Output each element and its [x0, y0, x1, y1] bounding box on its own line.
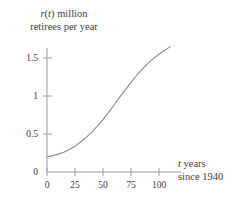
x-tick-label-100: 100	[146, 180, 172, 190]
x-tick-label-0: 0	[34, 180, 60, 190]
y-axis-variable-r: r	[41, 8, 45, 19]
y-tick-label-1_5: 1.5	[10, 53, 38, 63]
y-tick-label-0: 0	[10, 167, 38, 177]
x-axis-title-line1: t years	[178, 158, 238, 171]
x-tick-label-25: 25	[62, 180, 88, 190]
x-tick-label-75: 75	[118, 180, 144, 190]
y-tick-label-0_5: 0.5	[10, 129, 38, 139]
y-axis-title: r(t) million retirees per year	[12, 8, 116, 33]
x-axis-variable-t: t	[178, 158, 181, 169]
y-axis-title-line1: r(t) million	[12, 8, 116, 21]
x-tick-label-50: 50	[90, 180, 116, 190]
retirees-rate-chart: r(t) million retirees per year t years s…	[0, 0, 238, 203]
x-axis-title: t years since 1940	[178, 158, 238, 183]
y-axis-title-line2: retirees per year	[12, 21, 116, 34]
y-axis-variable-t: t	[48, 8, 51, 19]
y-tick-label-1: 1	[10, 91, 38, 101]
data-curve	[47, 47, 170, 157]
x-axis-title-line2: since 1940	[178, 171, 238, 184]
